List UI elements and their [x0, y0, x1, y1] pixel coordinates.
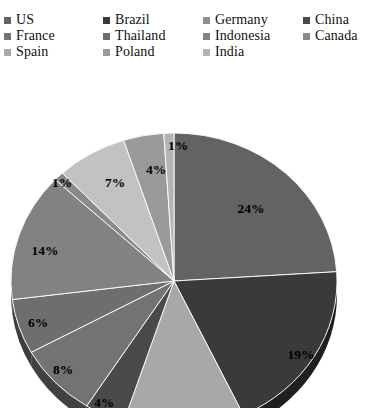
legend-item-us[interactable]: US	[4, 12, 103, 28]
pie-label-poland: 4%	[146, 162, 166, 177]
pie-label-indonesia: 14%	[32, 243, 59, 258]
legend-item-canada[interactable]: Canada	[303, 28, 374, 44]
legend-label-thailand: Thailand	[115, 28, 166, 44]
legend-item-indonesia[interactable]: Indonesia	[203, 28, 303, 44]
legend-swatch-germany-icon	[203, 17, 210, 24]
chart-legend: USBrazilGermanyChinaFranceThailandIndone…	[0, 0, 374, 68]
legend-swatch-china-icon	[303, 17, 310, 24]
legend-swatch-poland-icon	[103, 49, 110, 56]
legend-label-china: China	[315, 12, 349, 28]
legend-swatch-brazil-icon	[103, 17, 110, 24]
legend-label-france: France	[16, 28, 55, 44]
legend-item-germany[interactable]: Germany	[203, 12, 303, 28]
legend-swatch-india-icon	[203, 49, 210, 56]
pie-label-us: 24%	[238, 201, 265, 216]
legend-swatch-thailand-icon	[103, 33, 110, 40]
legend-item-spain[interactable]: Spain	[4, 44, 103, 60]
legend-item-china[interactable]: China	[303, 12, 374, 28]
legend-swatch-spain-icon	[4, 49, 11, 56]
pie-chart-svg: 24%19%12%4%8%6%14%1%7%4%1%	[0, 66, 374, 408]
pie-label-brazil: 19%	[288, 347, 315, 362]
legend-item-india[interactable]: India	[203, 44, 303, 60]
legend-label-indonesia: Indonesia	[215, 28, 270, 44]
pie-chart-area: 24%19%12%4%8%6%14%1%7%4%1%	[0, 66, 374, 408]
legend-label-spain: Spain	[16, 44, 48, 60]
legend-item-poland[interactable]: Poland	[103, 44, 203, 60]
legend-label-poland: Poland	[115, 44, 155, 60]
legend-item-france[interactable]: France	[4, 28, 103, 44]
pie-label-france: 8%	[53, 362, 73, 377]
legend-swatch-france-icon	[4, 33, 11, 40]
legend-grid: USBrazilGermanyChinaFranceThailandIndone…	[4, 12, 370, 60]
legend-swatch-indonesia-icon	[203, 33, 210, 40]
pie-label-india: 1%	[168, 138, 188, 153]
legend-label-brazil: Brazil	[115, 12, 150, 28]
legend-item-empty	[303, 44, 374, 60]
legend-item-thailand[interactable]: Thailand	[103, 28, 203, 44]
pie-label-china: 4%	[94, 395, 114, 408]
pie-label-spain: 7%	[105, 175, 125, 190]
pie-label-thailand: 6%	[28, 315, 48, 330]
legend-item-brazil[interactable]: Brazil	[103, 12, 203, 28]
legend-label-us: US	[16, 12, 34, 28]
legend-swatch-canada-icon	[303, 33, 310, 40]
legend-label-germany: Germany	[215, 12, 268, 28]
legend-label-india: India	[215, 44, 244, 60]
pie-label-canada: 1%	[52, 175, 72, 190]
legend-label-canada: Canada	[315, 28, 358, 44]
legend-swatch-us-icon	[4, 17, 11, 24]
